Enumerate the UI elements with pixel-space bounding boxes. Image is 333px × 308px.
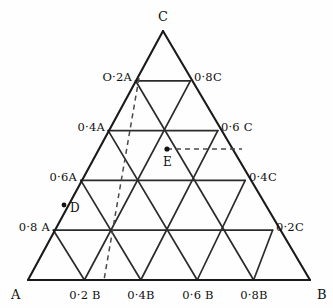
right-axis-tick-labels: 0·8C 0·6 C 0·4C 0·2C: [194, 70, 304, 234]
axis-label-a-0.6: 0·6A: [50, 170, 78, 184]
axis-label-c-0.4: 0·4C: [249, 170, 277, 184]
grid-line-c-0.2: [53, 230, 84, 280]
ternary-diagram-figure: C A B O·2A 0·4A 0·6A 0·8 A 0·8C 0·6 C 0·…: [0, 0, 333, 308]
point-label-d: D: [70, 201, 80, 215]
vertex-label-b: B: [317, 287, 327, 302]
axis-label-c-0.2: 0·2C: [276, 220, 304, 234]
axis-label-b-0.8: 0·8B: [240, 288, 268, 302]
axis-label-a-0.4: 0·4A: [78, 120, 106, 134]
construction-lines: [104, 78, 242, 280]
bottom-axis-tick-labels: 0·2 B 0·4B 0·6 B 0·8B: [69, 288, 267, 302]
axis-label-a-0.2: O·2A: [102, 70, 132, 84]
axis-label-a-0.8: 0·8 A: [19, 220, 51, 234]
ternary-diagram-svg: C A B O·2A 0·4A 0·6A 0·8 A 0·8C 0·6 C 0·…: [0, 0, 333, 308]
point-d-dot[interactable]: [62, 203, 67, 208]
axis-label-c-0.8: 0·8C: [194, 70, 222, 84]
triangle-right-edge: [163, 31, 310, 280]
marked-points: [62, 146, 170, 207]
vertex-label-c: C: [158, 9, 168, 24]
grid-line-b-0.8: [254, 230, 273, 280]
point-e-dot[interactable]: [164, 146, 169, 151]
axis-label-b-0.6: 0·6 B: [182, 288, 213, 302]
point-label-e: E: [163, 155, 172, 169]
axis-label-b-0.4: 0·4B: [127, 288, 155, 302]
axis-label-b-0.2: 0·2 B: [69, 288, 100, 302]
vertex-label-a: A: [10, 287, 21, 302]
triangle-left-edge: [28, 31, 163, 280]
axis-label-c-0.6: 0·6 C: [221, 120, 253, 134]
